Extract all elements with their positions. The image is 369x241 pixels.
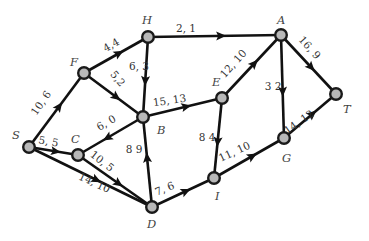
edge-label: 4,4	[101, 35, 122, 54]
node-label-c: C	[71, 132, 80, 146]
node-label-g: G	[282, 151, 291, 165]
node-label-i: I	[214, 189, 220, 203]
node-label-s: S	[12, 128, 20, 142]
edge-h-a	[148, 35, 281, 37]
network-flow-diagram: 10, 64,45,26, 32, 115, 136, 012, 108 43 …	[0, 0, 369, 241]
node-s	[23, 141, 35, 153]
node-a	[275, 29, 287, 41]
edge-label: 14, 10	[77, 170, 112, 195]
node-t	[330, 88, 342, 100]
edge-label: 10, 5	[88, 148, 116, 174]
node-label-t: T	[343, 102, 352, 116]
edge-label: 2, 1	[176, 22, 196, 34]
node-e	[216, 92, 228, 104]
arrows-layer	[50, 31, 319, 197]
edge-label: 7, 6	[153, 179, 176, 198]
edge-label: 6, 0	[94, 112, 117, 132]
node-label-b: B	[156, 123, 165, 137]
node-label-a: A	[276, 13, 285, 27]
node-label-d: D	[146, 217, 156, 231]
node-d	[146, 201, 158, 213]
node-h	[142, 31, 154, 43]
arrowhead-icon	[101, 131, 114, 144]
edge-label: 6, 3	[129, 60, 149, 72]
edge-label: 15, 13	[152, 92, 187, 109]
node-label-h: H	[141, 13, 153, 27]
node-i	[208, 172, 220, 184]
node-f	[78, 67, 90, 79]
edge-a-g	[281, 35, 284, 138]
edge-label: 5, 5	[38, 133, 60, 148]
node-b	[137, 111, 149, 123]
edge-label: 10, 6	[28, 88, 53, 117]
node-g	[278, 132, 290, 144]
edge-label: 8 9	[126, 143, 143, 155]
edge-label: 3 2	[265, 80, 282, 92]
edge-label: 5,2	[108, 68, 128, 89]
node-label-e: E	[211, 75, 221, 89]
node-c	[72, 149, 84, 161]
node-label-f: F	[69, 55, 79, 69]
arrowhead-icon	[180, 185, 193, 197]
edge-label: 8 4	[199, 131, 216, 143]
edge-h-b	[143, 37, 148, 117]
